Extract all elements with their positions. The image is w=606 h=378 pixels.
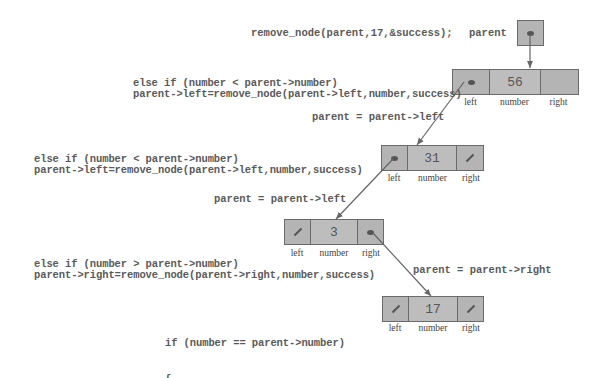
- arrow-3-to-17: [373, 233, 431, 296]
- arrow-31-to-3: [336, 159, 393, 219]
- arrows-layer: [0, 0, 606, 378]
- arrow-56-to-31: [417, 82, 464, 145]
